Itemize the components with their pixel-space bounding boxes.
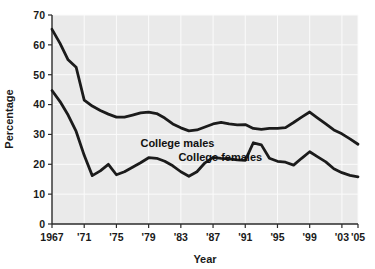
line-chart: 010203040506070 1967'71'75'79'83'87'91'9… (0, 0, 375, 269)
x-tick-label: '99 (303, 231, 317, 243)
y-axis-title: Percentage (3, 89, 15, 148)
x-axis-title: Year (193, 253, 217, 265)
x-tick-label: '95 (270, 231, 284, 243)
y-tick-label: 30 (33, 128, 45, 140)
y-tick-label: 70 (33, 9, 45, 21)
chart-container: 010203040506070 1967'71'75'79'83'87'91'9… (0, 0, 375, 269)
y-tick-label: 20 (33, 158, 45, 170)
plot-area-background (52, 15, 358, 224)
series-label-college-males: College males (140, 137, 214, 149)
y-tick-label: 40 (33, 98, 45, 110)
y-tick-label: 10 (33, 188, 45, 200)
y-tick-label: 50 (33, 69, 45, 81)
x-tick-label: '03 (335, 231, 349, 243)
x-tick-label: '91 (238, 231, 252, 243)
x-tick-label: '75 (109, 231, 123, 243)
y-tick-label: 60 (33, 39, 45, 51)
x-tick-label: '83 (174, 231, 188, 243)
x-tick-label: 1967 (40, 231, 64, 243)
x-tick-label: '87 (206, 231, 220, 243)
y-tick-label: 0 (39, 218, 45, 230)
series-label-college-females: College females (178, 151, 262, 163)
x-tick-label: '71 (77, 231, 91, 243)
x-tick-label: '79 (142, 231, 156, 243)
x-tick-label: '05 (351, 231, 365, 243)
